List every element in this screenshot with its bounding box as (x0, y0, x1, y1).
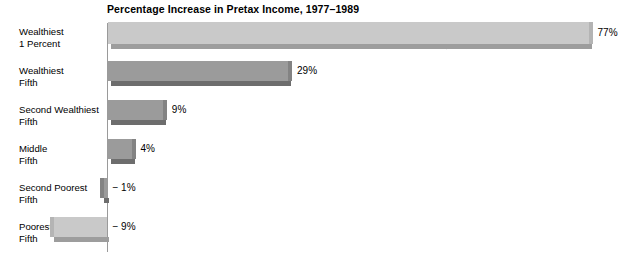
bar[interactable] (101, 178, 107, 198)
bar-depth-face (104, 198, 109, 203)
category-label-line2: Fifth (19, 194, 97, 206)
category-label-line2: Fifth (19, 77, 97, 89)
bar-row: Wealthiest1 Percent77% (0, 22, 631, 61)
category-label-line1: Wealthiest (19, 65, 97, 77)
category-label-line2: Fifth (19, 116, 97, 128)
chart-title: Percentage Increase in Pretax Income, 19… (107, 3, 359, 15)
category-label: Wealthiest1 Percent (0, 26, 97, 50)
bar-depth-face (54, 237, 109, 242)
bar-end-face (288, 61, 292, 81)
category-label: MiddleFifth (0, 143, 97, 167)
bar-value-label: − 9% (113, 221, 136, 232)
category-label: Second WealthiestFifth (0, 104, 97, 128)
category-label-line1: Wealthiest (19, 26, 97, 38)
bar-value-label: 9% (172, 104, 186, 115)
category-label-line2: 1 Percent (19, 38, 97, 50)
bar-depth-face (111, 120, 166, 125)
bar-row: Second WealthiestFifth9% (0, 100, 631, 139)
category-label-line1: Second Wealthiest (19, 104, 97, 116)
category-label-line2: Fifth (19, 155, 97, 167)
bar[interactable] (108, 22, 590, 44)
bar[interactable] (108, 139, 133, 159)
bar-face (108, 139, 133, 159)
bar-face (108, 61, 290, 81)
bar-value-label: 77% (598, 27, 618, 38)
bar-row: WealthiestFifth29% (0, 61, 631, 100)
bar-end-face (132, 139, 136, 159)
category-label-line1: Middle (19, 143, 97, 155)
bar-face (108, 100, 164, 120)
bar-face (51, 217, 107, 237)
bar[interactable] (51, 217, 107, 237)
bar-value-label: − 1% (113, 182, 136, 193)
bar-row: PoorestFifth− 9% (0, 217, 631, 256)
bar-end-face (163, 100, 167, 120)
bar-value-label: 29% (297, 65, 317, 76)
bar-depth-face (111, 81, 292, 86)
category-label: Second PoorestFifth (0, 182, 97, 206)
bar-row: MiddleFifth4% (0, 139, 631, 178)
category-label-line1: Second Poorest (19, 182, 97, 194)
plot-area: Wealthiest1 Percent77%WealthiestFifth29%… (0, 20, 631, 259)
bar-end-face (589, 22, 593, 44)
category-label: WealthiestFifth (0, 65, 97, 89)
bar[interactable] (108, 61, 290, 81)
bar-depth-face (111, 159, 135, 164)
bar-value-label: 4% (141, 143, 155, 154)
bar-end-face (100, 178, 104, 198)
bar-face (108, 22, 590, 44)
bar-depth-face (111, 44, 592, 49)
bar[interactable] (108, 100, 164, 120)
bar-end-face (50, 217, 54, 237)
chart-figure: Percentage Increase in Pretax Income, 19… (0, 0, 631, 259)
bar-row: Second PoorestFifth− 1% (0, 178, 631, 217)
